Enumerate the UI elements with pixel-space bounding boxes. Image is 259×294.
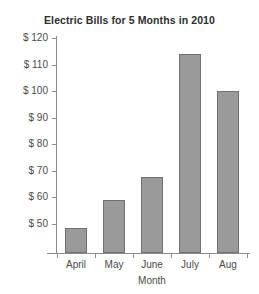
y-axis-tick-120 — [52, 38, 57, 39]
y-axis-label-60: $ 60 — [0, 191, 48, 202]
y-axis-label-90: $ 90 — [0, 112, 48, 123]
x-axis-label-april: April — [57, 259, 95, 270]
y-axis-tick-60 — [52, 197, 57, 198]
bar-aug — [217, 91, 239, 253]
y-axis-tick-90 — [52, 118, 57, 119]
x-axis-label-may: May — [95, 259, 133, 270]
x-axis-tick-0 — [57, 253, 58, 258]
x-axis-title: Month — [57, 275, 247, 286]
y-axis-label-120: $ 120 — [0, 32, 48, 43]
bar-july — [179, 54, 201, 253]
x-axis-tick-1 — [95, 253, 96, 258]
x-axis-line — [47, 253, 250, 254]
y-axis-label-70: $ 70 — [0, 165, 48, 176]
y-axis-line — [56, 36, 57, 254]
y-axis-label-110: $ 110 — [0, 59, 48, 70]
bar-chart-figure: Electric Bills for 5 Months in 2010 $ 12… — [0, 0, 259, 294]
chart-title: Electric Bills for 5 Months in 2010 — [0, 14, 259, 26]
x-axis-label-aug: Aug — [209, 259, 247, 270]
x-axis-tick-4 — [209, 253, 210, 258]
y-axis-tick-80 — [52, 144, 57, 145]
y-axis-tick-110 — [52, 65, 57, 66]
y-axis-tick-70 — [52, 171, 57, 172]
bar-may — [103, 200, 125, 253]
x-axis-label-july: July — [171, 259, 209, 270]
y-axis-label-80: $ 80 — [0, 138, 48, 149]
bar-june — [141, 177, 163, 253]
x-axis-tick-3 — [171, 253, 172, 258]
x-axis-label-june: June — [133, 259, 171, 270]
y-axis-label-100: $ 100 — [0, 85, 48, 96]
y-axis-tick-100 — [52, 91, 57, 92]
x-axis-tick-2 — [133, 253, 134, 258]
bar-april — [65, 228, 87, 253]
y-axis-label-50: $ 50 — [0, 218, 48, 229]
x-axis-tick-5 — [247, 253, 248, 258]
y-axis-tick-50 — [52, 224, 57, 225]
